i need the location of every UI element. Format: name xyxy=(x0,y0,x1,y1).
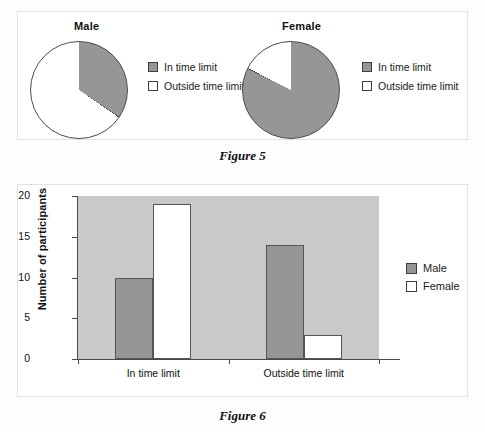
y-axis-tick-label: 5 xyxy=(6,312,30,323)
pie-legend-male: In time limit Outside time limit xyxy=(148,62,245,99)
bar-female-in-time-limit xyxy=(153,204,191,359)
legend-swatch-white-icon xyxy=(362,81,372,91)
legend-swatch-gray-icon xyxy=(406,263,417,274)
legend-label: In time limit xyxy=(164,62,217,73)
bar-chart-legend: Male Female xyxy=(406,263,460,299)
pie-title-male: Male xyxy=(74,20,99,32)
y-axis-tick-label: 10 xyxy=(6,272,30,283)
x-axis-tick xyxy=(78,359,79,364)
bar-female-outside-time-limit xyxy=(304,335,342,359)
legend-item-outside-time-limit: Outside time limit xyxy=(362,81,459,92)
y-axis-tick-label: 20 xyxy=(6,190,30,201)
x-axis-category-label: In time limit xyxy=(78,367,229,379)
legend-item-in-time-limit: In time limit xyxy=(148,62,245,73)
y-axis-label: Number of participants xyxy=(36,169,48,329)
figure-6-caption: Figure 6 xyxy=(0,408,485,424)
y-axis-tick xyxy=(72,237,78,238)
bar-chart-plot-area xyxy=(78,196,379,359)
legend-label: Outside time limit xyxy=(164,81,245,92)
figure-6-panel: Number of participants 20151050 In time … xyxy=(17,184,468,397)
y-axis-tick xyxy=(72,196,78,197)
figure-page: Male In time limit Outside time limit Fe… xyxy=(0,0,485,432)
x-axis-tick xyxy=(379,359,380,364)
x-axis-line xyxy=(77,359,400,360)
y-axis-tick xyxy=(72,318,78,319)
x-axis-category-label: Outside time limit xyxy=(229,367,380,379)
legend-item-female: Female xyxy=(406,281,460,292)
pie-chart-female: Female In time limit Outside time limit xyxy=(236,12,466,139)
legend-label: Male xyxy=(423,263,447,274)
legend-item-in-time-limit: In time limit xyxy=(362,62,459,73)
bar-male-outside-time-limit xyxy=(266,245,304,359)
bar-male-in-time-limit xyxy=(115,278,153,360)
legend-swatch-gray-icon xyxy=(148,62,158,72)
x-axis-tick xyxy=(229,359,230,364)
legend-swatch-white-icon xyxy=(148,81,158,91)
legend-swatch-gray-icon xyxy=(362,62,372,72)
legend-swatch-white-icon xyxy=(406,281,417,292)
pie-graphic-male xyxy=(30,41,128,139)
legend-item-outside-time-limit: Outside time limit xyxy=(148,81,245,92)
y-axis-tick-label: 15 xyxy=(6,231,30,242)
legend-label: Outside time limit xyxy=(378,81,459,92)
pie-chart-male: Male In time limit Outside time limit xyxy=(20,12,240,139)
pie-graphic-female xyxy=(242,41,340,139)
figure-5-caption: Figure 5 xyxy=(0,148,485,164)
legend-label: In time limit xyxy=(378,62,431,73)
pie-legend-female: In time limit Outside time limit xyxy=(362,62,459,99)
figure-5-panel: Male In time limit Outside time limit Fe… xyxy=(17,11,468,140)
pie-title-female: Female xyxy=(282,20,321,32)
y-axis-tick-label: 0 xyxy=(6,353,30,364)
legend-label: Female xyxy=(423,281,460,292)
y-axis-tick xyxy=(72,278,78,279)
legend-item-male: Male xyxy=(406,263,460,274)
